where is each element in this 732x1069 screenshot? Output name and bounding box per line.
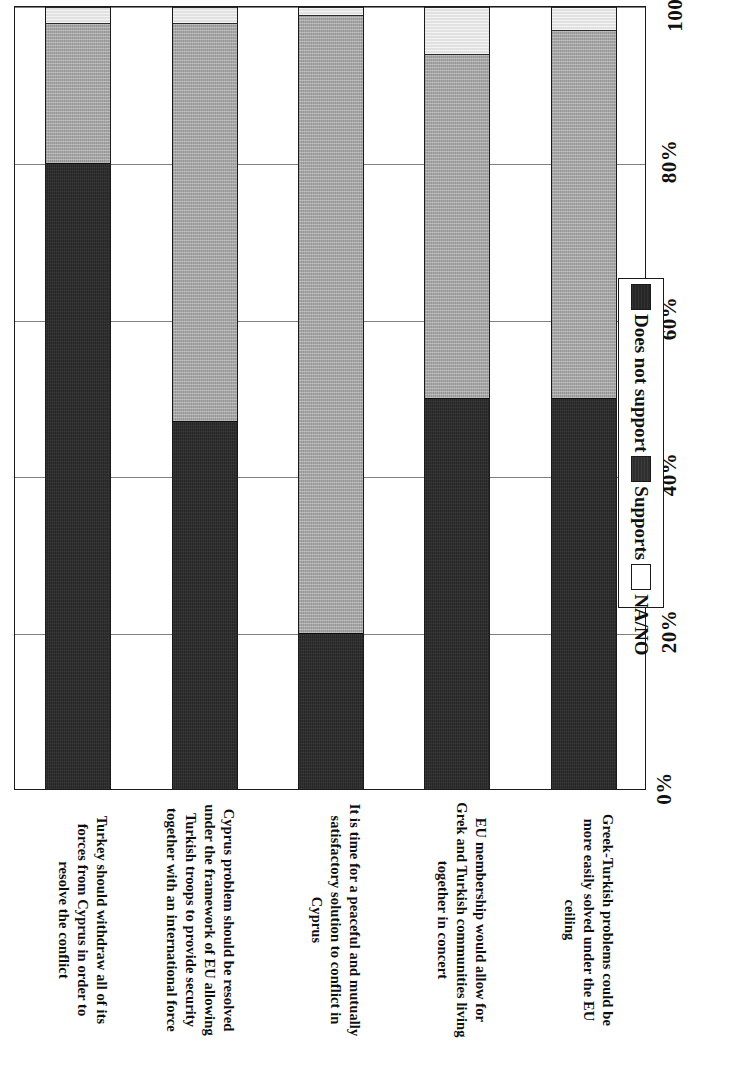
plot-area	[14, 6, 646, 790]
axis-tick-100pct: 100%	[648, 0, 718, 17]
bar-series-group	[15, 7, 645, 789]
legend-label: Does not support	[630, 314, 652, 452]
bar-2-segment-na-no[interactable]	[173, 7, 237, 23]
axis-tick-label: 0%	[652, 772, 677, 805]
category-label-2: Cyprus problem should be resolved under …	[172, 800, 238, 1040]
bar-5-segment-na-no[interactable]	[552, 7, 616, 30]
axis-tick-label: 20%	[657, 610, 682, 654]
bar-2-segment-supports[interactable]	[173, 23, 237, 422]
category-axis: Turkey should withdraw all of its forces…	[14, 796, 646, 1066]
bar-4[interactable]	[424, 7, 490, 789]
category-label-4: EU membership would allow for Grek and T…	[424, 800, 490, 1040]
chart-canvas: 0%20%40%60%80%100% Turkey should withdra…	[0, 0, 732, 1069]
bar-4-segment-na-no[interactable]	[425, 7, 489, 54]
category-label-5: Greek-Turkish problems could be more eas…	[551, 800, 617, 1040]
legend-item-na[interactable]: NA/NO	[630, 564, 652, 655]
bar-5-segment-supports[interactable]	[552, 30, 616, 398]
bar-2[interactable]	[172, 7, 238, 789]
bar-5-segment-does-not-support[interactable]	[552, 398, 616, 789]
bar-1-segment-supports[interactable]	[46, 23, 110, 164]
axis-tick-label: 80%	[657, 140, 682, 184]
bar-3-segment-na-no[interactable]	[299, 7, 363, 15]
category-label-1: Turkey should withdraw all of its forces…	[45, 800, 111, 1040]
bar-2-segment-does-not-support[interactable]	[173, 421, 237, 789]
bar-3-segment-does-not-support[interactable]	[299, 633, 363, 789]
axis-tick-label: 100%	[663, 0, 688, 32]
legend-item-dns[interactable]: Does not support	[630, 284, 652, 452]
bar-1-segment-na-no[interactable]	[46, 7, 110, 23]
bar-3[interactable]	[298, 7, 364, 789]
category-label-3: It is time for a peaceful and mutually s…	[298, 800, 364, 1040]
bar-4-segment-does-not-support[interactable]	[425, 398, 489, 789]
bar-1[interactable]	[45, 7, 111, 789]
bar-4-segment-supports[interactable]	[425, 54, 489, 398]
legend-label: NA/NO	[630, 594, 652, 655]
chart-legend: Does not supportSupportsNA/NO	[618, 278, 664, 608]
legend-item-sup[interactable]: Supports	[630, 456, 652, 560]
axis-tick-0pct: 0%	[648, 776, 718, 801]
legend-swatch-dns-icon	[631, 284, 651, 310]
bar-5[interactable]	[551, 7, 617, 789]
axis-tick-80pct: 80%	[648, 149, 718, 174]
bar-1-segment-does-not-support[interactable]	[46, 163, 110, 789]
legend-swatch-na-icon	[631, 564, 651, 590]
legend-label: Supports	[630, 486, 652, 560]
axis-tick-20pct: 20%	[648, 619, 718, 644]
legend-swatch-sup-icon	[631, 456, 651, 482]
bar-3-segment-supports[interactable]	[299, 15, 363, 633]
